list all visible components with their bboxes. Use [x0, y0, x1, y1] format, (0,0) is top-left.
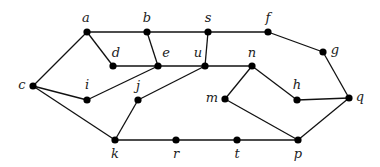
node-label-d: d [112, 45, 120, 60]
node-label-f: f [265, 10, 273, 25]
edge-s-u [205, 32, 208, 66]
node-label-g: g [331, 42, 339, 57]
edge-m-p [225, 99, 298, 140]
node-label-e: e [162, 45, 170, 60]
edge-n-h [252, 66, 297, 100]
node-label-i: i [85, 77, 89, 92]
node-d [109, 62, 116, 69]
node-q [345, 94, 352, 101]
node-label-r: r [173, 146, 180, 161]
edge-k-j [115, 100, 138, 140]
node-label-p: p [294, 146, 303, 161]
edge-n-m [225, 66, 252, 99]
node-t [233, 136, 240, 143]
node-u [201, 62, 208, 69]
edge-f-g [268, 32, 323, 52]
node-f [264, 28, 271, 35]
node-a [83, 28, 90, 35]
edges-group [33, 32, 349, 140]
node-g [319, 48, 326, 55]
edge-a-d [87, 32, 113, 66]
node-label-k: k [111, 146, 119, 161]
edge-h-q [297, 98, 349, 100]
node-label-m: m [206, 90, 218, 105]
node-label-j: j [133, 78, 140, 93]
node-k [111, 136, 118, 143]
node-label-h: h [293, 77, 301, 92]
graph-diagram: absfgdeuncijmhqkrtp [0, 0, 380, 167]
node-r [172, 136, 179, 143]
node-e [154, 62, 161, 69]
edge-c-i [33, 86, 87, 100]
edge-a-c [33, 32, 87, 86]
node-m [221, 95, 228, 102]
node-label-n: n [248, 45, 256, 60]
node-i [83, 96, 90, 103]
node-p [294, 136, 301, 143]
node-c [29, 82, 36, 89]
node-label-a: a [82, 10, 90, 25]
edge-q-p [298, 98, 349, 140]
node-label-t: t [234, 146, 240, 161]
node-label-u: u [194, 45, 202, 60]
node-b [143, 28, 150, 35]
edge-c-k [33, 86, 115, 140]
node-j [134, 96, 141, 103]
edge-b-e [147, 32, 158, 66]
node-label-c: c [18, 77, 26, 92]
node-h [293, 96, 300, 103]
node-s [204, 28, 211, 35]
node-n [248, 62, 255, 69]
node-label-s: s [205, 10, 212, 25]
node-label-b: b [143, 10, 151, 25]
edge-g-q [323, 52, 349, 98]
node-label-q: q [356, 89, 364, 104]
